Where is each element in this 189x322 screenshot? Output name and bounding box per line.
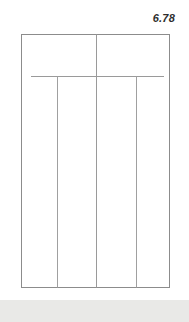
- outer-rectangle: [22, 35, 170, 288]
- technical-line-drawing: [0, 0, 189, 322]
- bottom-gray-band: [0, 300, 189, 322]
- figure-page: 6.78: [0, 0, 189, 322]
